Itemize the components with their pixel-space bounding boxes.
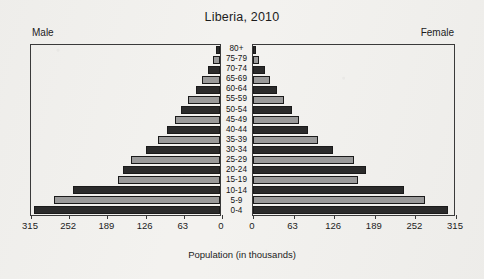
bar-row (253, 195, 454, 205)
chart-title: Liberia, 2010 (0, 10, 484, 24)
female-axis-label-189: 189 (366, 220, 382, 231)
bar-row (253, 65, 454, 75)
female-bar-35-39 (253, 136, 318, 143)
axis-tick-mark (107, 215, 108, 219)
female-bar-55-59 (253, 96, 284, 103)
x-axis-title: Population (in thousands) (0, 249, 484, 260)
male-bar-60-64 (196, 86, 220, 93)
bar-row (31, 95, 220, 105)
bar-row (31, 115, 220, 125)
male-bar-80+ (216, 46, 220, 53)
population-pyramid-figure: Liberia, 2010 Male Female 80+75-7970-746… (0, 0, 484, 279)
age-label-10-14: 10-14 (221, 186, 252, 196)
male-bar-75-79 (213, 56, 220, 63)
male-bar-40-44 (167, 126, 220, 133)
age-label-45-49: 45-49 (221, 115, 252, 125)
male-bar-10-14 (73, 186, 220, 193)
age-label-25-29: 25-29 (221, 155, 252, 165)
bar-row (31, 135, 220, 145)
age-label-65-69: 65-69 (221, 74, 252, 84)
male-bar-65-69 (202, 76, 220, 83)
male-plot-panel (30, 44, 221, 216)
bar-row (253, 145, 454, 155)
male-axis-label-126: 126 (137, 220, 153, 231)
male-bar-5-9 (54, 196, 220, 203)
male-bar-15-19 (118, 176, 220, 183)
bar-row (31, 195, 220, 205)
bar-row (253, 135, 454, 145)
male-bar-50-54 (181, 106, 220, 113)
bar-row (31, 205, 220, 215)
female-axis-label-126: 126 (325, 220, 341, 231)
axis-tick-mark (184, 215, 185, 219)
axis-tick-mark (456, 215, 457, 219)
bar-row (31, 155, 220, 165)
female-bar-65-69 (253, 76, 270, 83)
axis-tick-mark (294, 215, 295, 219)
female-bar-80+ (253, 46, 256, 53)
age-group-axis: 80+75-7970-7465-6960-6455-5950-5445-4940… (221, 44, 252, 216)
male-axis-label-189: 189 (98, 220, 114, 231)
male-axis-label-252: 252 (60, 220, 76, 231)
female-plot-panel (252, 44, 455, 216)
bar-row (31, 85, 220, 95)
age-label-20-24: 20-24 (221, 165, 252, 175)
male-bar-45-49 (175, 116, 220, 123)
bar-row (31, 125, 220, 135)
axis-tick-mark (253, 215, 254, 219)
axis-tick-mark (69, 215, 70, 219)
axis-tick-mark (146, 215, 147, 219)
male-bar-25-29 (131, 156, 220, 163)
age-label-5-9: 5-9 (221, 196, 252, 206)
male-side-label: Male (32, 27, 54, 38)
bar-row (31, 175, 220, 185)
age-label-35-39: 35-39 (221, 135, 252, 145)
age-label-15-19: 15-19 (221, 176, 252, 186)
age-label-75-79: 75-79 (221, 54, 252, 64)
male-axis-label-63: 63 (178, 220, 189, 231)
male-axis-label-315: 315 (22, 220, 38, 231)
male-bar-0-4 (34, 206, 220, 213)
female-axis-label-315: 315 (447, 220, 463, 231)
bar-row (31, 165, 220, 175)
male-bar-30-34 (146, 146, 220, 153)
female-bar-30-34 (253, 146, 333, 153)
male-axis-label-0: 0 (218, 220, 223, 231)
bar-row (31, 185, 220, 195)
female-bar-40-44 (253, 126, 308, 133)
female-axis-label-63: 63 (287, 220, 298, 231)
bar-row (253, 85, 454, 95)
bar-row (253, 175, 454, 185)
female-bar-50-54 (253, 106, 292, 113)
bar-row (253, 205, 454, 215)
bar-row (253, 185, 454, 195)
bar-row (253, 45, 454, 55)
female-bar-group (253, 45, 454, 215)
axis-tick-mark (31, 215, 32, 219)
bar-row (31, 65, 220, 75)
axis-tick-mark (415, 215, 416, 219)
bar-row (31, 55, 220, 65)
female-bar-75-79 (253, 56, 259, 63)
female-bar-0-4 (253, 206, 448, 213)
age-label-60-64: 60-64 (221, 84, 252, 94)
bar-row (253, 55, 454, 65)
age-label-0-4: 0-4 (221, 206, 252, 216)
female-bar-45-49 (253, 116, 299, 123)
bar-row (31, 75, 220, 85)
bar-row (253, 75, 454, 85)
bar-row (31, 145, 220, 155)
male-bar-35-39 (158, 136, 220, 143)
female-bar-20-24 (253, 166, 366, 173)
age-label-70-74: 70-74 (221, 64, 252, 74)
male-bar-55-59 (188, 96, 220, 103)
axis-tick-mark (375, 215, 376, 219)
female-bar-70-74 (253, 66, 265, 73)
female-axis-label-0: 0 (249, 220, 254, 231)
bar-row (253, 165, 454, 175)
bar-row (31, 105, 220, 115)
male-bar-group (31, 45, 220, 215)
female-side-label: Female (421, 27, 454, 38)
female-bar-60-64 (253, 86, 277, 93)
male-bar-20-24 (123, 166, 220, 173)
